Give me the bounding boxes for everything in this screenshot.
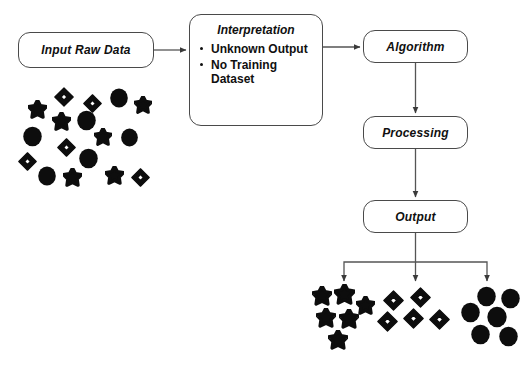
star-glyph-icon — [94, 128, 112, 149]
star-glyph-icon — [316, 308, 336, 331]
circle-glyph-icon — [470, 324, 491, 348]
diamond-glyph-icon — [429, 309, 450, 333]
star-glyph-icon — [28, 100, 47, 122]
node-output[interactable]: Output — [363, 200, 468, 233]
node-interpretation-title: Interpretation — [190, 23, 322, 37]
interpretation-bullet-item: Unknown Output — [190, 42, 322, 57]
connector-output-to-stars — [344, 233, 416, 281]
connector-output-to-circles — [416, 262, 488, 281]
interpretation-bullet-label: Unknown Output — [211, 42, 308, 56]
diamond-glyph-icon — [403, 308, 424, 332]
node-processing[interactable]: Processing — [363, 116, 468, 149]
circle-glyph-icon — [22, 126, 43, 150]
star-glyph-icon — [63, 168, 82, 190]
interpretation-bullet-list: Unknown Output No Training Dataset — [190, 42, 322, 87]
node-interpretation[interactable]: Interpretation Unknown Output No Trainin… — [189, 14, 323, 126]
circle-glyph-icon — [37, 166, 57, 189]
circle-glyph-icon — [460, 302, 481, 326]
star-glyph-icon — [312, 286, 332, 309]
star-glyph-icon — [134, 96, 152, 117]
diamond-glyph-icon — [377, 311, 398, 335]
bullet-dot-icon — [200, 63, 203, 66]
node-algorithm-label: Algorithm — [386, 40, 444, 54]
bullet-dot-icon — [200, 47, 203, 50]
interpretation-bullet-item: No Training Dataset — [190, 58, 322, 87]
diamond-glyph-icon — [131, 168, 150, 190]
node-processing-label: Processing — [382, 126, 449, 140]
star-glyph-icon — [334, 284, 355, 308]
star-glyph-icon — [105, 166, 124, 188]
star-glyph-icon — [52, 112, 71, 134]
cluster-diamonds — [377, 290, 453, 338]
diamond-glyph-icon — [18, 152, 37, 174]
diamond-glyph-icon — [57, 138, 76, 160]
node-input-raw-data[interactable]: Input Raw Data — [18, 32, 154, 68]
star-glyph-icon — [328, 330, 348, 353]
cluster-mixed-raw-data — [10, 82, 160, 172]
circle-glyph-icon — [498, 326, 519, 350]
diagram-canvas: Input Raw Data Interpretation Unknown Ou… — [0, 0, 527, 366]
node-input-raw-data-label: Input Raw Data — [41, 43, 130, 57]
cluster-circles — [458, 286, 522, 348]
diamond-glyph-icon — [54, 87, 74, 110]
circle-glyph-icon — [120, 128, 139, 150]
node-output-label: Output — [395, 210, 436, 224]
node-algorithm[interactable]: Algorithm — [363, 30, 468, 63]
star-glyph-icon — [339, 309, 359, 332]
cluster-stars — [306, 284, 378, 350]
circle-glyph-icon — [109, 88, 129, 111]
interpretation-bullet-label: No Training Dataset — [211, 58, 277, 87]
